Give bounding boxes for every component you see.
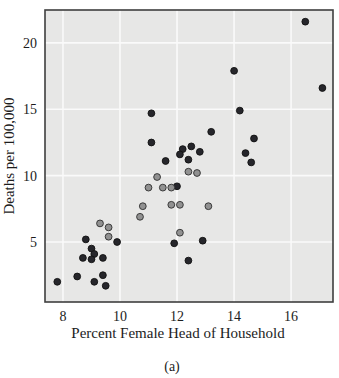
data-point — [100, 255, 107, 262]
x-tick-label: 8 — [59, 309, 66, 324]
y-tick-label: 10 — [23, 169, 37, 184]
data-point — [137, 213, 144, 220]
data-point — [168, 184, 175, 191]
data-point — [236, 107, 243, 114]
data-point — [177, 229, 184, 236]
x-axis-tick-labels: 810121416 — [59, 309, 298, 324]
data-point — [97, 220, 104, 227]
x-tick-label: 12 — [170, 309, 184, 324]
data-point — [196, 148, 203, 155]
data-point — [162, 158, 169, 165]
x-tick-label: 14 — [227, 309, 241, 324]
data-point — [80, 255, 87, 262]
data-point — [91, 278, 98, 285]
data-point — [100, 272, 107, 279]
data-point — [88, 256, 95, 263]
data-point — [185, 156, 192, 163]
data-point — [205, 203, 212, 210]
data-point — [114, 239, 121, 246]
scatter-figure: 810121416 5101520 Percent Female Head of… — [0, 0, 339, 378]
figure-caption: (a) — [164, 359, 180, 375]
data-point — [168, 201, 175, 208]
data-point — [171, 240, 178, 247]
data-point — [248, 159, 255, 166]
data-point — [139, 203, 146, 210]
data-point — [105, 224, 112, 231]
scatter-plot: 810121416 5101520 Percent Female Head of… — [0, 0, 339, 378]
data-point — [251, 135, 258, 142]
x-tick-label: 16 — [284, 309, 298, 324]
data-point — [105, 233, 112, 240]
data-point — [242, 150, 249, 157]
data-point — [82, 236, 89, 243]
data-point — [177, 151, 184, 158]
y-tick-label: 5 — [30, 235, 37, 250]
y-tick-label: 15 — [23, 102, 37, 117]
data-point — [231, 67, 238, 74]
y-tick-label: 20 — [23, 36, 37, 51]
data-point — [185, 168, 192, 175]
data-point — [145, 184, 152, 191]
data-point — [54, 278, 61, 285]
data-point — [208, 128, 215, 135]
y-axis-tick-labels: 5101520 — [23, 36, 37, 250]
data-point — [194, 170, 201, 177]
y-axis-label: Deaths per 100,000 — [1, 97, 17, 214]
data-point — [199, 237, 206, 244]
data-point — [159, 184, 166, 191]
data-point — [148, 139, 155, 146]
data-point — [188, 143, 195, 150]
x-tick-label: 10 — [113, 309, 127, 324]
data-point — [185, 257, 192, 264]
data-point — [148, 110, 155, 117]
data-point — [154, 174, 161, 181]
data-point — [74, 273, 81, 280]
x-axis-label: Percent Female Head of Household — [71, 325, 285, 341]
data-point — [302, 18, 309, 25]
data-point — [102, 282, 109, 289]
data-point — [177, 201, 184, 208]
data-point — [319, 85, 326, 92]
